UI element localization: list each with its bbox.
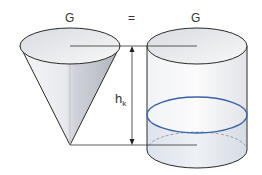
cylinder-shape	[147, 28, 247, 168]
cone-cylinder-diagram	[0, 0, 262, 175]
height-arrow	[130, 46, 135, 145]
cone-shape	[20, 28, 120, 145]
